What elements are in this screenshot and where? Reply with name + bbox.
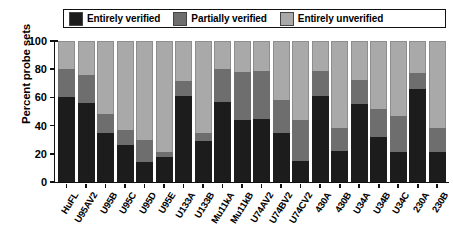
bar-segment-partially-verified [253,71,270,119]
stacked-bar [234,41,251,182]
bar-segment-partially-verified [390,116,407,153]
x-axis-tick-mark [144,184,146,188]
x-axis-tick-mark [397,184,399,188]
bar-segment-entirely-unverified [156,41,173,152]
x-axis-tick-mark [378,184,380,188]
bar-segment-entirely-verified [117,145,134,182]
stacked-bar [331,41,348,182]
bar-segment-entirely-verified [331,151,348,182]
bar-segment-entirely-unverified [175,41,192,80]
x-axis-tick-mark [105,184,107,188]
bar-segment-partially-verified [195,133,212,141]
x-axis-tick-mark [222,184,224,188]
stacked-bar [78,41,95,182]
stacked-bar [409,41,426,182]
x-axis-tick-mark [241,184,243,188]
y-axis-tick-label: 0 [41,176,47,188]
bar-segment-partially-verified [273,100,290,132]
legend-label: Entirely unverified [298,13,383,24]
legend-entry: Partially verified [173,12,266,26]
bar-segment-entirely-verified [175,96,192,182]
bar-segment-entirely-unverified [214,41,231,69]
bar-segment-entirely-verified [156,157,173,182]
bar-segment-entirely-verified [97,133,114,182]
x-axis-tick-mark [280,184,282,188]
x-axis-tick-label: 430B [332,190,353,214]
bar-segment-partially-verified [312,71,329,96]
bar-segment-entirely-unverified [370,41,387,109]
bar-segment-entirely-verified [136,162,153,182]
x-axis-labels: HuFLU95AV2U95BU95CU95DU95EU133AU133BMu11… [54,184,448,236]
x-axis-tick-mark [358,184,360,188]
bar-group [55,41,449,182]
bar-segment-entirely-unverified [292,41,309,120]
x-axis-tick-label: U95C [117,190,139,216]
stacked-bar [97,41,114,182]
stacked-bar [58,41,75,182]
bar-segment-entirely-verified [234,120,251,182]
bar-segment-entirely-verified [214,102,231,182]
bar-segment-entirely-unverified [273,41,290,100]
y-axis-tick-label: 20 [35,148,47,160]
bar-segment-partially-verified [331,128,348,151]
bar-segment-partially-verified [370,109,387,137]
legend-label: Partially verified [191,13,266,24]
bar-segment-entirely-verified [429,152,446,182]
x-axis-tick-mark [300,184,302,188]
legend-entry: Entirely unverified [280,12,383,26]
x-axis-tick-label: U95B [97,190,119,216]
bar-segment-partially-verified [78,75,95,103]
legend-swatch-icon [69,12,83,26]
bar-segment-partially-verified [175,81,192,97]
bar-segment-entirely-unverified [117,41,134,130]
x-axis-tick-mark [183,184,185,188]
x-axis-tick-label: U34C [390,190,412,216]
stacked-bar [214,41,231,182]
bar-segment-partially-verified [234,72,251,120]
x-axis-tick-mark [66,184,68,188]
bar-segment-entirely-verified [78,103,95,182]
bar-segment-entirely-unverified [58,41,75,69]
stacked-bar [136,41,153,182]
bar-segment-entirely-unverified [78,41,95,75]
bar-segment-partially-verified [429,128,446,152]
stacked-bar [312,41,329,182]
y-axis-tick-label: 40 [35,120,47,132]
x-axis-tick-label: 430A [313,190,334,214]
stacked-bar [273,41,290,182]
bar-segment-partially-verified [97,114,114,132]
bar-segment-entirely-verified [390,152,407,182]
stacked-bar [351,41,368,182]
x-axis-tick-mark [124,184,126,188]
stacked-bar [390,41,407,182]
legend-swatch-icon [173,12,187,26]
bar-segment-partially-verified [117,130,134,146]
bar-segment-entirely-verified [409,89,426,182]
stacked-bar [175,41,192,182]
bar-segment-entirely-verified [351,104,368,182]
bar-segment-entirely-unverified [331,41,348,128]
bar-segment-entirely-verified [312,96,329,182]
bar-segment-entirely-verified [195,141,212,182]
x-axis-tick-label: U95D [136,190,158,216]
bar-segment-partially-verified [136,140,153,163]
x-axis-tick-mark [202,184,204,188]
legend-entry: Entirely verified [69,12,160,26]
bar-segment-partially-verified [214,69,231,101]
bar-segment-entirely-unverified [409,41,426,73]
bar-segment-partially-verified [409,73,426,89]
x-axis-tick-mark [436,184,438,188]
x-axis-tick-label: U34B [370,190,392,216]
bar-segment-entirely-verified [58,97,75,182]
x-axis-tick-label: U34A [351,190,373,216]
bar-segment-entirely-unverified [351,41,368,80]
stacked-bar [292,41,309,182]
legend-label: Entirely verified [87,13,160,24]
stacked-bar [429,41,446,182]
bar-segment-entirely-unverified [312,41,329,71]
bar-segment-entirely-unverified [234,41,251,72]
chart-legend: Entirely verifiedPartially verifiedEntir… [63,9,446,28]
stacked-bar [156,41,173,182]
y-axis-tick-label: 60 [35,91,47,103]
bar-segment-entirely-unverified [136,41,153,140]
